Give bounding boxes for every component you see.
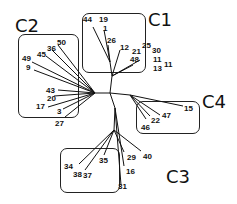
leaf-label: 9 xyxy=(26,64,30,72)
leaf-label: 46 xyxy=(141,124,150,132)
leaf-label: 13 xyxy=(153,65,162,73)
leaf-label: 40 xyxy=(143,153,152,161)
leaf-label: 44 xyxy=(83,16,92,24)
leaf-label: 47 xyxy=(162,112,171,120)
leaf-label: 25 xyxy=(142,42,151,50)
leaf-label: 27 xyxy=(55,120,64,128)
leaf-label: 3 xyxy=(57,108,61,116)
leaf-label: 17 xyxy=(36,103,45,111)
leaf-label: 1 xyxy=(103,25,107,33)
cluster-label-c1: C1 xyxy=(148,11,172,29)
cluster-label-c4: C4 xyxy=(202,93,226,111)
leaf-label: 34 xyxy=(64,163,73,171)
leaf-label: 50 xyxy=(57,39,66,47)
leaf-label: 20 xyxy=(47,95,56,103)
leaf-label: 30 xyxy=(152,47,161,55)
leaf-label: 29 xyxy=(127,154,136,162)
leaf-label: 12 xyxy=(120,44,129,52)
leaf-label: 15 xyxy=(184,105,193,113)
cluster-label-c3: C3 xyxy=(166,168,190,186)
leaf-label: 38 xyxy=(73,171,82,179)
leaf-label: 35 xyxy=(99,157,108,165)
leaf-label: 19 xyxy=(99,16,108,24)
cluster-label-c2: C2 xyxy=(15,17,39,35)
leaf-label: 11 xyxy=(164,61,172,69)
leaf-label: 49 xyxy=(22,55,31,63)
leaf-label: 37 xyxy=(83,172,92,180)
leaf-label: 26 xyxy=(107,37,116,45)
leaf-label: 36 xyxy=(47,45,56,53)
leaf-label: 22 xyxy=(151,117,160,125)
leaf-label: 31 xyxy=(118,183,127,191)
leaf-label: 11 xyxy=(153,56,161,64)
leaf-label: 48 xyxy=(130,56,139,64)
leaf-label: 16 xyxy=(126,168,135,176)
leaf-label: 45 xyxy=(37,51,46,59)
